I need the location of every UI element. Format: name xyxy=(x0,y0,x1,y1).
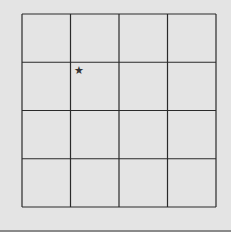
bottom-edge-bar xyxy=(0,230,231,232)
star-icon: ★ xyxy=(74,65,84,76)
grid-diagram xyxy=(0,0,231,232)
